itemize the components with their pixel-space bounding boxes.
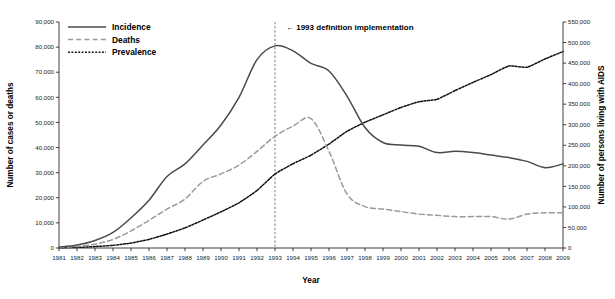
x-tick-label: 1989 bbox=[196, 254, 210, 261]
right-tick-label: 250,000 bbox=[568, 141, 591, 148]
x-tick-label: 2007 bbox=[520, 254, 534, 261]
left-tick-label: 60,000 bbox=[35, 94, 54, 101]
right-axis-ticks bbox=[563, 22, 566, 248]
x-tick-label: 1984 bbox=[106, 254, 120, 261]
right-tick-label: 500,000 bbox=[568, 39, 591, 46]
right-tick-label: 100,000 bbox=[568, 203, 591, 210]
x-tick-label: 2003 bbox=[448, 254, 462, 261]
left-tick-label: 40,000 bbox=[35, 144, 54, 151]
x-axis-ticks bbox=[59, 248, 563, 251]
x-axis-tick-labels: 1981198219831984198519861987198819891990… bbox=[52, 254, 570, 261]
1993-definition-label: ← 1993 definition implementation bbox=[286, 23, 414, 32]
left-tick-label: 80,000 bbox=[35, 43, 54, 50]
annotation-1993: ← 1993 definition implementation bbox=[275, 22, 414, 248]
right-axis: 050,000100,000150,000200,000250,000300,0… bbox=[563, 18, 606, 251]
x-tick-label: 2001 bbox=[412, 254, 426, 261]
x-tick-label: 1983 bbox=[88, 254, 102, 261]
right-tick-label: 200,000 bbox=[568, 162, 591, 169]
right-axis-title: Number of persons living with AIDS bbox=[597, 65, 606, 204]
aids-surveillance-chart: 010,00020,00030,00040,00050,00060,00070,… bbox=[0, 0, 615, 299]
left-tick-label: 50,000 bbox=[35, 119, 54, 126]
x-tick-label: 1992 bbox=[250, 254, 264, 261]
x-tick-label: 2002 bbox=[430, 254, 444, 261]
x-axis-title: Year bbox=[302, 276, 320, 285]
left-tick-label: 30,000 bbox=[35, 169, 54, 176]
legend-label-incidence: Incidence bbox=[112, 22, 151, 32]
right-tick-label: 150,000 bbox=[568, 183, 591, 190]
x-tick-label: 1999 bbox=[376, 254, 390, 261]
left-tick-label: 90,000 bbox=[35, 18, 54, 25]
x-tick-label: 1997 bbox=[340, 254, 354, 261]
right-tick-label: 400,000 bbox=[568, 80, 591, 87]
right-tick-label: 550,000 bbox=[568, 18, 591, 25]
left-tick-label: 0 bbox=[51, 244, 55, 251]
left-axis-tick-labels: 010,00020,00030,00040,00050,00060,00070,… bbox=[35, 18, 54, 251]
x-tick-label: 1996 bbox=[322, 254, 336, 261]
prevalence-line bbox=[59, 52, 563, 248]
left-axis: 010,00020,00030,00040,00050,00060,00070,… bbox=[6, 18, 59, 251]
x-tick-label: 1986 bbox=[142, 254, 156, 261]
x-tick-label: 1987 bbox=[160, 254, 174, 261]
x-tick-label: 2000 bbox=[394, 254, 408, 261]
x-tick-label: 1988 bbox=[178, 254, 192, 261]
x-tick-label: 2006 bbox=[502, 254, 516, 261]
left-tick-label: 20,000 bbox=[35, 194, 54, 201]
series-group bbox=[59, 46, 563, 248]
right-tick-label: 0 bbox=[568, 244, 572, 251]
x-tick-label: 2009 bbox=[556, 254, 570, 261]
x-tick-label: 1982 bbox=[70, 254, 84, 261]
x-tick-label: 1990 bbox=[214, 254, 228, 261]
x-tick-label: 1993 bbox=[268, 254, 282, 261]
left-tick-label: 70,000 bbox=[35, 68, 54, 75]
legend-label-deaths: Deaths bbox=[112, 35, 140, 45]
legend-label-prevalence: Prevalence bbox=[112, 47, 157, 57]
x-tick-label: 1981 bbox=[52, 254, 66, 261]
chart-svg: 010,00020,00030,00040,00050,00060,00070,… bbox=[0, 0, 615, 299]
left-tick-label: 10,000 bbox=[35, 219, 54, 226]
left-axis-title: Number of cases or deaths bbox=[6, 82, 15, 188]
x-axis: 1981198219831984198519861987198819891990… bbox=[52, 248, 570, 285]
right-tick-label: 350,000 bbox=[568, 100, 591, 107]
right-axis-tick-labels: 050,000100,000150,000200,000250,000300,0… bbox=[568, 18, 591, 251]
x-tick-label: 2008 bbox=[538, 254, 552, 261]
x-tick-label: 2004 bbox=[466, 254, 480, 261]
x-tick-label: 2005 bbox=[484, 254, 498, 261]
chart-legend: IncidenceDeathsPrevalence bbox=[68, 22, 157, 57]
deaths-line bbox=[59, 118, 563, 248]
x-tick-label: 1985 bbox=[124, 254, 138, 261]
x-tick-label: 1998 bbox=[358, 254, 372, 261]
left-axis-ticks bbox=[56, 22, 59, 248]
x-tick-label: 1994 bbox=[286, 254, 300, 261]
right-tick-label: 300,000 bbox=[568, 121, 591, 128]
right-tick-label: 50,000 bbox=[568, 224, 587, 231]
x-tick-label: 1991 bbox=[232, 254, 246, 261]
right-tick-label: 450,000 bbox=[568, 59, 591, 66]
x-tick-label: 1995 bbox=[304, 254, 318, 261]
